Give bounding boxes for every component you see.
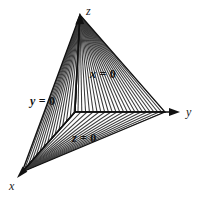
plane-z-equation: = 0	[77, 131, 97, 145]
y-axis-arrowhead	[169, 108, 180, 116]
plane-x-equation: = 0	[96, 67, 116, 81]
face-x-equals-zero	[75, 15, 165, 112]
coordinate-system-figure: x y z x = 0 y = 0 z = 0	[0, 0, 203, 200]
z-axis-label: z	[86, 5, 91, 17]
plane-y-equation: = 0	[36, 94, 56, 108]
plane-label-y-equals-zero: y = 0	[30, 95, 55, 107]
y-axis-label: y	[186, 106, 191, 118]
plane-label-z-equals-zero: z = 0	[72, 132, 97, 144]
x-axis-label: x	[9, 180, 14, 192]
plane-label-x-equals-zero: x = 0	[90, 68, 116, 80]
